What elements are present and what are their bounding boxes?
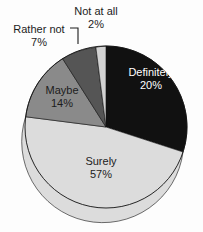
pie-label-not-at-all: Not at all 2% [62,5,130,31]
pie-label-definitely-name: Definitely [114,66,188,79]
pie-label-maybe: Maybe 14% [32,84,92,110]
pie-label-definitely: Definitely 20% [114,66,188,92]
pie-label-maybe-value: 14% [32,97,92,110]
pie-chart-figure: Definitely 20% Surely 57% Maybe 14% Rath… [0,0,203,232]
pie-label-surely-name: Surely [64,155,138,168]
pie-label-not-at-all-name: Not at all [62,5,130,18]
pie-label-rather-not-value: 7% [3,36,75,49]
pie-label-maybe-name: Maybe [32,84,92,97]
pie-label-not-at-all-value: 2% [62,18,130,31]
pie-label-surely: Surely 57% [64,155,138,181]
pie-label-surely-value: 57% [64,168,138,181]
pie-label-definitely-value: 20% [114,79,188,92]
